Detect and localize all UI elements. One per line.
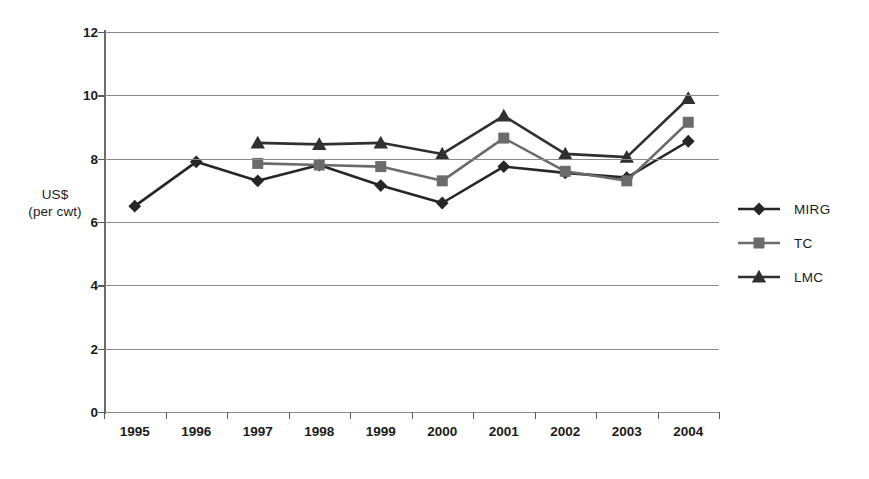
triangle-icon bbox=[736, 269, 782, 285]
x-tick-label-1995: 1995 bbox=[105, 424, 165, 439]
y-tick-label-6: 6 bbox=[70, 215, 98, 230]
x-tick-label-2001: 2001 bbox=[474, 424, 534, 439]
legend-item-tc[interactable]: TC bbox=[736, 226, 864, 260]
x-tick-label-2000: 2000 bbox=[412, 424, 472, 439]
legend-label: LMC bbox=[782, 270, 823, 285]
y-tick-label-12: 12 bbox=[70, 25, 98, 40]
diamond-marker bbox=[753, 203, 766, 216]
square-marker bbox=[754, 238, 765, 249]
legend-item-mirg[interactable]: MIRG bbox=[736, 192, 864, 226]
y-tick-label-8: 8 bbox=[70, 151, 98, 166]
legend-item-lmc[interactable]: LMC bbox=[736, 260, 864, 294]
x-tick-label-1999: 1999 bbox=[351, 424, 411, 439]
x-tick-label-2003: 2003 bbox=[597, 424, 657, 439]
legend-label: MIRG bbox=[782, 202, 830, 217]
y-tick-label-2: 2 bbox=[70, 341, 98, 356]
x-tick-label-1996: 1996 bbox=[166, 424, 226, 439]
chart-legend: MIRGTCLMC bbox=[736, 192, 864, 294]
y-tick-label-0: 0 bbox=[70, 405, 98, 420]
x-tick-label-2004: 2004 bbox=[658, 424, 718, 439]
square-icon bbox=[736, 235, 782, 251]
y-tick-label-4: 4 bbox=[70, 278, 98, 293]
x-tick-label-1998: 1998 bbox=[289, 424, 349, 439]
x-tick-label-1997: 1997 bbox=[228, 424, 288, 439]
x-axis-tick-labels: 1995199619971998199920002001200220032004 bbox=[104, 0, 719, 479]
x-tick-label-2002: 2002 bbox=[535, 424, 595, 439]
legend-label: TC bbox=[782, 236, 813, 251]
y-tick-label-10: 10 bbox=[70, 88, 98, 103]
y-axis-tick-labels: 024681012 bbox=[68, 0, 98, 479]
x-tick-mark bbox=[719, 412, 720, 419]
diamond-icon bbox=[736, 201, 782, 217]
line-chart: US$ (per cwt) 024681012 1995199619971998… bbox=[0, 0, 869, 479]
